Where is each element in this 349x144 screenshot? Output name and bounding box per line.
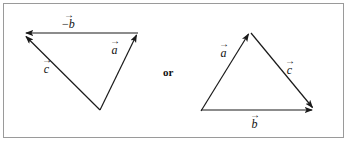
label-letter: a (221, 46, 227, 60)
label-glyph-row: −b (62, 18, 75, 30)
label-letter: a (112, 43, 118, 57)
label-vector-a-right: → a (219, 42, 228, 59)
label-vector-c-left: → c (42, 58, 51, 75)
or-connector-text: or (163, 67, 173, 78)
vector-diagram-figure: → −b → a → c or → a → c → b (0, 0, 349, 144)
label-letter: b (252, 117, 258, 131)
minus-sign: − (62, 17, 69, 31)
vector-arrow-c-right (251, 33, 313, 108)
vector-arrow-c-left (26, 37, 100, 111)
label-vector-a-left: → a (110, 39, 119, 56)
label-vector-neg-b-left: → −b (62, 13, 75, 30)
label-vector-b-right: → b (250, 113, 259, 130)
label-vector-c-right: → c (285, 59, 294, 76)
label-letter: c (44, 62, 49, 76)
right-triangle-group (201, 33, 313, 111)
vector-arrows-canvas (0, 0, 349, 144)
label-letter: c (287, 63, 292, 77)
label-letter: b (69, 17, 75, 31)
